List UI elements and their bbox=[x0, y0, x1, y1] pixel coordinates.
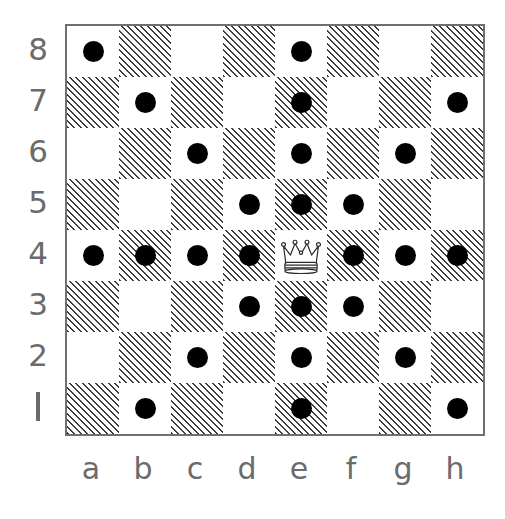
square-a7[interactable] bbox=[67, 77, 119, 128]
chessboard-grid bbox=[67, 26, 483, 434]
square-a4[interactable] bbox=[67, 230, 119, 281]
square-d8[interactable] bbox=[223, 26, 275, 77]
square-a1[interactable] bbox=[67, 383, 119, 434]
rank-label-8: 8 bbox=[16, 24, 60, 75]
square-f1[interactable] bbox=[327, 383, 379, 434]
move-dot-c6 bbox=[187, 143, 208, 164]
file-label-h: h bbox=[429, 443, 481, 495]
square-f6[interactable] bbox=[327, 128, 379, 179]
square-b2[interactable] bbox=[119, 332, 171, 383]
square-d3[interactable] bbox=[223, 281, 275, 332]
square-f3[interactable] bbox=[327, 281, 379, 332]
square-h1[interactable] bbox=[431, 383, 483, 434]
square-e3[interactable] bbox=[275, 281, 327, 332]
square-c5[interactable] bbox=[171, 179, 223, 230]
square-g3[interactable] bbox=[379, 281, 431, 332]
square-g6[interactable] bbox=[379, 128, 431, 179]
move-dot-d3 bbox=[239, 296, 260, 317]
square-b4[interactable] bbox=[119, 230, 171, 281]
square-e6[interactable] bbox=[275, 128, 327, 179]
square-c6[interactable] bbox=[171, 128, 223, 179]
move-dot-c4 bbox=[187, 245, 208, 266]
square-g4[interactable] bbox=[379, 230, 431, 281]
move-dot-b7 bbox=[135, 92, 156, 113]
move-dot-e8 bbox=[291, 41, 312, 62]
move-dot-e3 bbox=[291, 296, 312, 317]
square-b1[interactable] bbox=[119, 383, 171, 434]
move-dot-f3 bbox=[343, 296, 364, 317]
crown-icon[interactable] bbox=[278, 233, 324, 279]
square-h7[interactable] bbox=[431, 77, 483, 128]
square-d7[interactable] bbox=[223, 77, 275, 128]
square-f4[interactable] bbox=[327, 230, 379, 281]
move-dot-e1 bbox=[291, 398, 312, 419]
square-d4[interactable] bbox=[223, 230, 275, 281]
square-g7[interactable] bbox=[379, 77, 431, 128]
file-labels: a b c d e f g h bbox=[65, 443, 481, 495]
square-c1[interactable] bbox=[171, 383, 223, 434]
square-g5[interactable] bbox=[379, 179, 431, 230]
file-label-a: a bbox=[65, 443, 117, 495]
square-h6[interactable] bbox=[431, 128, 483, 179]
square-b6[interactable] bbox=[119, 128, 171, 179]
square-e1[interactable] bbox=[275, 383, 327, 434]
square-a3[interactable] bbox=[67, 281, 119, 332]
move-dot-d5 bbox=[239, 194, 260, 215]
square-h3[interactable] bbox=[431, 281, 483, 332]
square-h8[interactable] bbox=[431, 26, 483, 77]
square-e7[interactable] bbox=[275, 77, 327, 128]
square-b3[interactable] bbox=[119, 281, 171, 332]
move-dot-e5 bbox=[291, 194, 312, 215]
square-d2[interactable] bbox=[223, 332, 275, 383]
rank-label-1: 1 bbox=[16, 381, 60, 432]
square-f5[interactable] bbox=[327, 179, 379, 230]
square-a2[interactable] bbox=[67, 332, 119, 383]
move-dot-h1 bbox=[447, 398, 468, 419]
file-label-e: e bbox=[273, 443, 325, 495]
move-dot-g4 bbox=[395, 245, 416, 266]
square-d5[interactable] bbox=[223, 179, 275, 230]
rank-labels: 8 7 6 5 4 3 2 1 bbox=[16, 24, 60, 432]
square-h2[interactable] bbox=[431, 332, 483, 383]
move-dot-c2 bbox=[187, 347, 208, 368]
square-c4[interactable] bbox=[171, 230, 223, 281]
move-dot-g6 bbox=[395, 143, 416, 164]
square-a5[interactable] bbox=[67, 179, 119, 230]
move-dot-h4 bbox=[447, 245, 468, 266]
square-b8[interactable] bbox=[119, 26, 171, 77]
square-c8[interactable] bbox=[171, 26, 223, 77]
rank-label-2: 2 bbox=[16, 330, 60, 381]
file-label-c: c bbox=[169, 443, 221, 495]
square-a8[interactable] bbox=[67, 26, 119, 77]
move-dot-h7 bbox=[447, 92, 468, 113]
square-e2[interactable] bbox=[275, 332, 327, 383]
square-b7[interactable] bbox=[119, 77, 171, 128]
square-f8[interactable] bbox=[327, 26, 379, 77]
square-e5[interactable] bbox=[275, 179, 327, 230]
rank-label-4: 4 bbox=[16, 228, 60, 279]
square-b5[interactable] bbox=[119, 179, 171, 230]
square-h4[interactable] bbox=[431, 230, 483, 281]
square-c2[interactable] bbox=[171, 332, 223, 383]
square-g2[interactable] bbox=[379, 332, 431, 383]
chessboard bbox=[65, 24, 485, 436]
square-g8[interactable] bbox=[379, 26, 431, 77]
square-d6[interactable] bbox=[223, 128, 275, 179]
move-dot-f4 bbox=[343, 245, 364, 266]
square-d1[interactable] bbox=[223, 383, 275, 434]
square-c3[interactable] bbox=[171, 281, 223, 332]
chess-diagram: 8 7 6 5 4 3 2 1 a b c d e f g h bbox=[0, 0, 505, 519]
move-dot-e2 bbox=[291, 347, 312, 368]
square-e8[interactable] bbox=[275, 26, 327, 77]
square-e4[interactable] bbox=[275, 230, 327, 281]
move-dot-d4 bbox=[239, 245, 260, 266]
square-g1[interactable] bbox=[379, 383, 431, 434]
square-c7[interactable] bbox=[171, 77, 223, 128]
square-h5[interactable] bbox=[431, 179, 483, 230]
square-f7[interactable] bbox=[327, 77, 379, 128]
move-dot-a4 bbox=[83, 245, 104, 266]
square-a6[interactable] bbox=[67, 128, 119, 179]
move-dot-b4 bbox=[135, 245, 156, 266]
square-f2[interactable] bbox=[327, 332, 379, 383]
rank-label-5: 5 bbox=[16, 177, 60, 228]
